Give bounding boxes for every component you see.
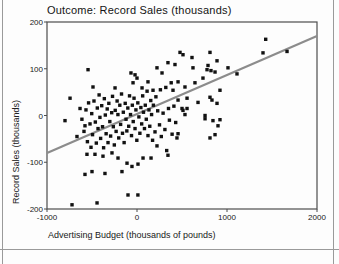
data-point [147, 108, 150, 111]
data-point [161, 111, 164, 114]
data-point [135, 139, 138, 142]
data-point [114, 130, 117, 133]
data-point [136, 101, 139, 104]
data-point [141, 94, 144, 97]
data-point [126, 106, 129, 109]
data-point [130, 165, 133, 168]
data-point [285, 50, 288, 53]
data-point [167, 107, 170, 110]
data-point [115, 99, 118, 102]
data-point [146, 80, 149, 83]
data-point [124, 118, 127, 121]
data-point [121, 132, 124, 135]
data-point [88, 122, 91, 125]
data-point [155, 66, 158, 69]
x-tick-label: 0 [117, 213, 157, 222]
data-point [172, 104, 175, 107]
data-point [174, 121, 177, 124]
data-point [168, 118, 171, 121]
data-point [109, 134, 112, 137]
data-point [203, 114, 206, 117]
data-point [176, 80, 179, 83]
data-point [151, 89, 154, 92]
data-point [97, 93, 100, 96]
data-point [83, 173, 86, 176]
y-axis-label: Record Sales (thousands) [11, 92, 21, 212]
data-point [85, 153, 88, 156]
data-point [101, 125, 104, 128]
data-point [201, 76, 204, 79]
data-point [173, 63, 176, 66]
data-point [133, 127, 136, 130]
data-point [143, 127, 146, 130]
data-point [163, 128, 166, 131]
data-point [166, 61, 169, 64]
data-point [213, 133, 216, 136]
data-point [122, 141, 125, 144]
data-point [110, 151, 113, 154]
x-tick-label: 2000 [297, 213, 337, 222]
data-point [151, 139, 154, 142]
data-point [261, 51, 264, 54]
data-point [209, 69, 212, 72]
data-point [63, 119, 66, 122]
data-point [196, 101, 199, 104]
data-point [150, 113, 153, 116]
data-point [264, 38, 267, 41]
data-point [208, 136, 211, 139]
data-point [86, 140, 89, 143]
data-point [120, 92, 123, 95]
data-point [140, 122, 143, 125]
y-tick-label: 200 [13, 18, 43, 27]
data-point [235, 72, 238, 75]
data-point [96, 127, 99, 130]
data-point [135, 76, 138, 79]
data-point [110, 111, 113, 114]
data-point [100, 104, 103, 107]
data-point [141, 156, 144, 159]
data-point [80, 118, 83, 121]
data-point [183, 85, 186, 88]
data-point [101, 154, 104, 157]
data-point [125, 129, 128, 132]
data-point [176, 98, 179, 101]
data-point [171, 89, 174, 92]
data-point [160, 135, 163, 138]
data-point [93, 153, 96, 156]
data-point [118, 104, 121, 107]
data-point [111, 95, 114, 98]
data-point [103, 172, 106, 175]
data-point [208, 96, 211, 99]
data-point [155, 144, 158, 147]
data-point [127, 125, 130, 128]
data-point [134, 108, 137, 111]
data-point [211, 119, 214, 122]
data-point [68, 97, 71, 100]
data-point [82, 130, 85, 133]
data-point [91, 85, 94, 88]
data-point [175, 136, 178, 139]
data-point [75, 135, 78, 138]
x-axis-label: Advertising Budget (thousands of pounds) [48, 230, 216, 240]
x-tick-label: -1000 [27, 213, 67, 222]
data-point [165, 149, 168, 152]
data-point [205, 68, 208, 71]
data-point [180, 107, 183, 110]
data-point [191, 66, 194, 69]
data-point [203, 117, 206, 120]
data-point [139, 106, 142, 109]
data-point [129, 113, 132, 116]
data-point [154, 95, 157, 98]
data-point [91, 133, 94, 136]
data-point [213, 70, 216, 73]
data-point [86, 68, 89, 71]
data-point [108, 120, 111, 123]
data-point [183, 113, 186, 116]
data-point [216, 124, 219, 127]
scatter-plot [0, 0, 339, 264]
data-point [94, 120, 97, 123]
data-point [112, 125, 115, 128]
data-point [193, 81, 196, 84]
data-point [114, 109, 117, 112]
slide-canvas: Outcome: Record Sales (thousands) -10000… [0, 0, 339, 264]
